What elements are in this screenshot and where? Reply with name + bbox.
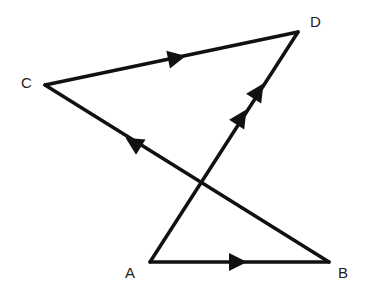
arrow-a-b-icon (229, 253, 247, 271)
edge-b-c (45, 85, 329, 262)
vertex-label-a: A (125, 264, 135, 281)
vertex-label-c: C (21, 74, 32, 91)
vertex-label-b: B (338, 264, 348, 281)
vector-diagram: A B C D (0, 0, 365, 296)
arrow-c-d-icon (166, 47, 187, 68)
vertex-label-d: D (310, 13, 321, 30)
